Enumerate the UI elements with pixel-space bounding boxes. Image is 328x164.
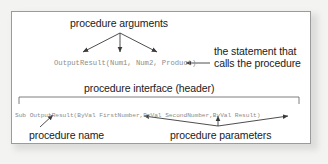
connector-overlay bbox=[12, 12, 311, 144]
label-procedure-interface: procedure interface (header) bbox=[84, 82, 214, 94]
arguments-fan-arrows bbox=[83, 33, 157, 52]
label-procedure-parameters: procedure parameters bbox=[170, 129, 271, 141]
code-header-statement: Sub OutputResult(ByVal FirstNumber,ByVal… bbox=[15, 111, 260, 120]
label-procedure-name: procedure name bbox=[29, 129, 104, 141]
diagram-canvas: procedure arguments the statement that c… bbox=[0, 0, 328, 164]
label-procedure-arguments: procedure arguments bbox=[70, 17, 168, 29]
diagram-card: procedure arguments the statement that c… bbox=[11, 11, 311, 144]
label-statement-line-1: the statement that bbox=[214, 45, 296, 57]
code-call-statement: OutputResult(Num1, Num2, Product) bbox=[54, 59, 196, 68]
label-statement-line-2: calls the procedure bbox=[214, 57, 301, 69]
interface-bracket bbox=[19, 97, 299, 104]
